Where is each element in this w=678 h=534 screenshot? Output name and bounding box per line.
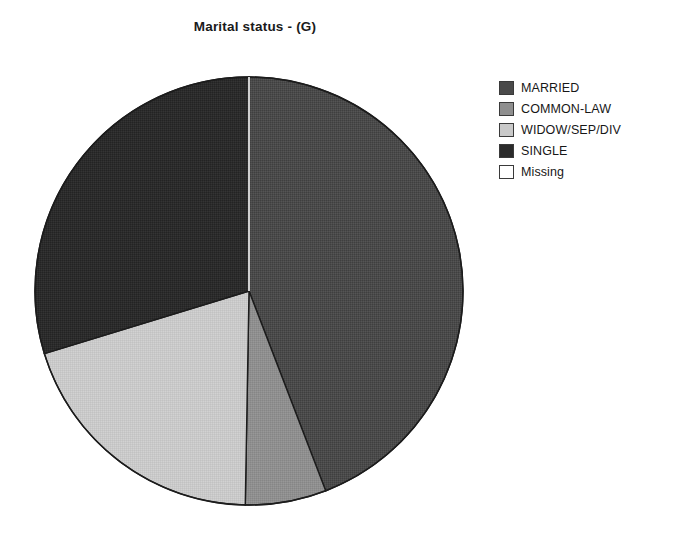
legend-label-missing: Missing [521, 165, 564, 179]
legend-swatch-common-law [499, 102, 514, 116]
legend-swatch-single [499, 144, 514, 158]
legend-item-widow-sep-div[interactable]: WIDOW/SEP/DIV [499, 119, 671, 140]
legend-swatch-married [499, 81, 514, 95]
legend-swatch-widow-sep-div [499, 123, 514, 137]
legend-label-married: MARRIED [521, 81, 579, 95]
legend-item-common-law[interactable]: COMMON-LAW [499, 98, 671, 119]
legend-item-single[interactable]: SINGLE [499, 140, 671, 161]
legend-label-common-law: COMMON-LAW [521, 102, 611, 116]
legend-label-single: SINGLE [521, 144, 567, 158]
chart-title: Marital status - (G) [0, 19, 510, 34]
pie-plot-area [30, 70, 472, 514]
pie-slice-group [35, 77, 463, 505]
pie-chart-figure: Marital status - (G) [0, 0, 678, 534]
legend-swatch-missing [499, 165, 514, 179]
legend-label-widow-sep-div: WIDOW/SEP/DIV [521, 123, 621, 137]
legend-item-missing[interactable]: Missing [499, 161, 671, 182]
legend-item-married[interactable]: MARRIED [499, 77, 671, 98]
pie-svg [30, 70, 472, 514]
chart-legend: MARRIED COMMON-LAW WIDOW/SEP/DIV SINGLE [499, 77, 671, 182]
